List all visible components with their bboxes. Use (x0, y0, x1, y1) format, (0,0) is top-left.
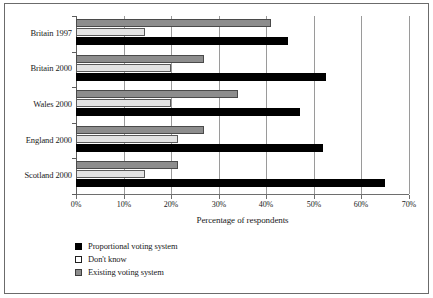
x-axis-tick-label: 60% (341, 200, 381, 209)
gridline (361, 16, 362, 194)
x-axis-tick (219, 195, 220, 199)
x-axis-tick-label: 40% (246, 200, 286, 209)
chart-legend: Proportional voting systemDon't knowExis… (75, 240, 177, 279)
category-axis-tick (72, 52, 77, 53)
x-axis-tick (314, 195, 315, 199)
legend-swatch-icon (75, 269, 82, 276)
category-axis-label: Britain 2000 (0, 63, 72, 73)
bar (76, 55, 204, 63)
bar (76, 126, 204, 134)
x-axis-title: Percentage of respondents (76, 215, 409, 225)
gridline (314, 16, 315, 194)
legend-item: Existing voting system (75, 266, 177, 278)
x-axis-tick-label: 0% (56, 200, 96, 209)
x-axis-line (76, 194, 409, 195)
bar (76, 37, 288, 45)
gridline (409, 16, 410, 194)
legend-item: Don't know (75, 253, 177, 265)
bar (76, 73, 326, 81)
bar (76, 99, 171, 107)
legend-item: Proportional voting system (75, 240, 177, 252)
category-axis-tick (72, 194, 77, 195)
category-axis-tick (72, 158, 77, 159)
category-axis-label: England 2000 (0, 135, 72, 145)
category-axis-label: Scotland 2000 (0, 170, 72, 180)
x-axis-tick-label: 10% (104, 200, 144, 209)
x-axis-tick (409, 195, 410, 199)
bar (76, 28, 145, 36)
bar (76, 64, 171, 72)
category-axis-labels: Britain 1997Britain 2000Wales 2000Englan… (0, 0, 72, 298)
bar (76, 179, 385, 187)
x-axis-tick (361, 195, 362, 199)
x-axis-tick-label: 20% (151, 200, 191, 209)
x-axis-tick (266, 195, 267, 199)
legend-item-label: Proportional voting system (88, 241, 177, 251)
bar (76, 170, 145, 178)
chart-figure: Britain 1997Britain 2000Wales 2000Englan… (0, 0, 433, 298)
legend-item-label: Don't know (88, 254, 127, 264)
bar (76, 135, 178, 143)
x-axis-tick (76, 195, 77, 199)
x-axis-tick (171, 195, 172, 199)
category-axis-tick (72, 87, 77, 88)
bar (76, 90, 238, 98)
category-axis-label: Britain 1997 (0, 28, 72, 38)
bar (76, 19, 271, 27)
category-axis-tick (72, 123, 77, 124)
bar (76, 161, 178, 169)
x-axis-tick-label: 70% (389, 200, 429, 209)
x-axis-tick (124, 195, 125, 199)
bar (76, 144, 323, 152)
bar (76, 108, 300, 116)
category-axis-label: Wales 2000 (0, 99, 72, 109)
x-axis-tick-label: 50% (294, 200, 334, 209)
category-axis-tick (72, 16, 77, 17)
legend-item-label: Existing voting system (88, 267, 164, 277)
x-axis-tick-label: 30% (199, 200, 239, 209)
legend-swatch-icon (75, 256, 82, 263)
plot-area (76, 16, 409, 194)
legend-swatch-icon (75, 243, 82, 250)
